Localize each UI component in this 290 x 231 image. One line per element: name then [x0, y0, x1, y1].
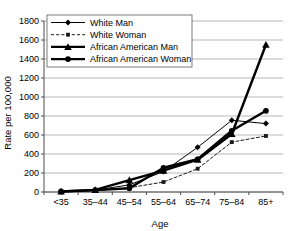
square-marker: [196, 167, 200, 171]
series-white-woman: [59, 134, 268, 194]
legend-label: African American Man: [90, 42, 178, 52]
x-tick-label: 75–84: [219, 197, 244, 207]
legend-label: White Man: [90, 18, 133, 28]
y-tick-label: 0: [34, 187, 39, 197]
y-tick-label: 1600: [19, 35, 39, 45]
legend-label: White Woman: [90, 30, 146, 40]
y-axis-tick-labels: 020040060080010001200140016001800: [19, 16, 44, 197]
triangle-marker: [262, 41, 270, 48]
chart-legend[interactable]: White ManWhite WomanAfrican American Man…: [47, 15, 192, 67]
x-tick-label: 35–44: [83, 197, 108, 207]
x-tick-label: 65–74: [185, 197, 210, 207]
y-tick-label: 400: [24, 149, 39, 159]
circle-marker: [127, 185, 133, 191]
diamond-marker: [263, 121, 269, 127]
square-marker: [66, 33, 70, 37]
x-axis-tick-labels: <3535–4445–5455–6465–7475–8485+: [44, 192, 283, 207]
y-tick-label: 1000: [19, 92, 39, 102]
y-tick-label: 1400: [19, 54, 39, 64]
legend-label: African American Woman: [90, 54, 191, 64]
circle-marker: [58, 189, 64, 195]
x-tick-label: 85+: [258, 197, 273, 207]
y-tick-label: 1800: [19, 16, 39, 26]
x-axis-title: Age: [152, 218, 169, 229]
square-marker: [230, 140, 234, 144]
x-tick-label: 45–54: [117, 197, 142, 207]
circle-marker: [65, 56, 71, 62]
circle-marker: [161, 165, 167, 171]
y-axis-title: Rate per 100,000: [2, 76, 13, 149]
y-tick-label: 800: [24, 111, 39, 121]
square-marker: [264, 134, 268, 138]
square-marker: [162, 180, 166, 184]
x-tick-label: <35: [53, 197, 68, 207]
y-tick-label: 1200: [19, 73, 39, 83]
y-tick-label: 600: [24, 130, 39, 140]
circle-marker: [229, 128, 235, 134]
y-tick-label: 200: [24, 168, 39, 178]
circle-marker: [195, 156, 201, 162]
circle-marker: [92, 187, 98, 193]
chart-container: 020040060080010001200140016001800 <3535–…: [0, 0, 290, 231]
line-chart: 020040060080010001200140016001800 <3535–…: [0, 0, 290, 231]
circle-marker: [263, 108, 269, 114]
x-tick-label: 55–64: [151, 197, 176, 207]
